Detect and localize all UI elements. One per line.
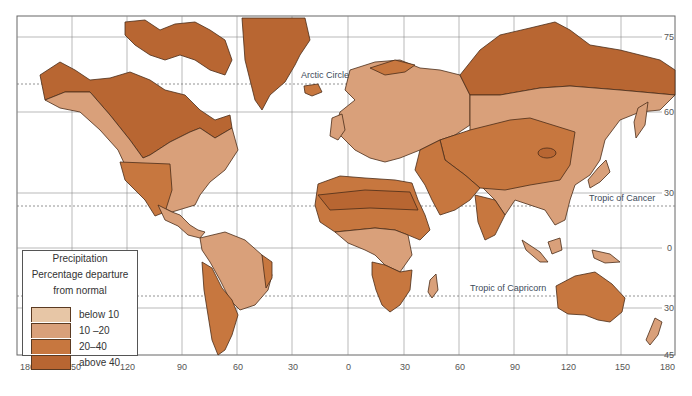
legend-label: below 10 <box>79 309 119 320</box>
legend-swatch <box>31 355 71 370</box>
lon-tick: 60 <box>233 362 243 372</box>
lat-tick: 30 <box>664 303 674 313</box>
tropic-of-capricorn-label: Tropic of Capricorn <box>470 283 546 293</box>
legend: Precipitation Percentage departure from … <box>22 250 138 356</box>
legend-item: 10 –20 <box>31 322 120 338</box>
lat-tick: 0 <box>667 243 672 253</box>
gobi-core <box>538 148 556 158</box>
tropic-of-cancer-label: Tropic of Cancer <box>589 193 655 203</box>
lon-tick: 30 <box>288 362 298 372</box>
lon-tick: 90 <box>510 362 520 372</box>
legend-item: 20–40 <box>31 338 120 354</box>
lon-tick: 180 <box>660 362 675 372</box>
legend-label: above 40 <box>79 357 120 368</box>
lon-tick: 120 <box>120 362 135 372</box>
legend-swatch <box>31 339 71 354</box>
lon-tick: 150 <box>615 362 630 372</box>
arctic-circle-label: Arctic Circle <box>301 70 349 80</box>
lat-tick: 30 <box>664 188 674 198</box>
lon-tick: 120 <box>561 362 576 372</box>
legend-swatch <box>31 307 71 322</box>
lon-tick: 90 <box>177 362 187 372</box>
lat-tick: 75 <box>664 32 674 42</box>
lon-tick: 0 <box>346 362 351 372</box>
legend-title-2: Percentage departure <box>23 267 137 283</box>
legend-item: below 10 <box>31 306 120 322</box>
legend-item: above 40 <box>31 354 120 370</box>
lat-tick: 60 <box>664 107 674 117</box>
legend-swatch <box>31 323 71 338</box>
legend-title-1: Precipitation <box>23 251 137 267</box>
legend-label: 10 –20 <box>79 325 110 336</box>
lon-tick: 30 <box>400 362 410 372</box>
lat-tick: 45 <box>664 350 674 360</box>
lon-tick: 60 <box>455 362 465 372</box>
legend-title-3: from normal <box>23 283 137 299</box>
legend-label: 20–40 <box>79 341 107 352</box>
